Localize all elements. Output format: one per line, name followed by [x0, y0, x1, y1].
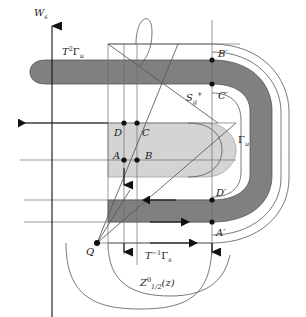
label-B: B [144, 150, 152, 161]
label-gamma-u: Γu [238, 134, 249, 148]
label-D-prime: D′ [215, 187, 227, 198]
label-T2-gamma-u: T2Γu [62, 45, 84, 60]
dot-A [121, 157, 126, 162]
dot-C-prime [209, 81, 214, 86]
label-Q: Q [86, 246, 94, 257]
dot-B [134, 157, 139, 162]
label-C: C [142, 127, 150, 138]
label-B-prime: B′ [217, 48, 228, 59]
label-D: D [113, 127, 122, 138]
label-Z-half: Z01/2(z) [139, 276, 175, 291]
dot-D-prime [209, 197, 214, 202]
diagram-canvas: Ws T2Γu Sg+ Γu T−1Γs Z01/2(z) B′ C′ D C … [0, 0, 306, 317]
label-A-prime: A′ [215, 227, 226, 238]
label-T-inv-gamma-s: T−1Γs [145, 249, 172, 264]
dot-C [134, 120, 139, 125]
top-narrow-loop [136, 19, 152, 66]
dot-B-prime [209, 57, 214, 62]
horseshoe-diagram: Ws T2Γu Sg+ Γu T−1Γs Z01/2(z) B′ C′ D C … [0, 0, 306, 317]
label-C-prime: C′ [218, 90, 229, 101]
label-A: A [112, 150, 120, 161]
dot-A-prime [209, 219, 214, 224]
dot-Q [94, 240, 100, 246]
dot-D [121, 120, 126, 125]
label-Ws: Ws [34, 7, 48, 21]
label-Sg-plus: Sg+ [186, 90, 202, 106]
